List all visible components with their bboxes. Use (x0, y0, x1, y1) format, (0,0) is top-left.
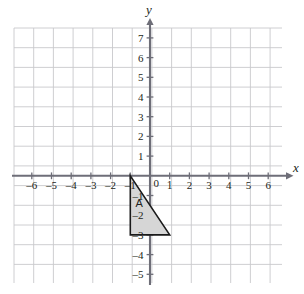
y-tick-label: –3 (132, 229, 145, 241)
x-tick-label: 2 (187, 179, 193, 191)
x-tick-label: –4 (65, 179, 78, 191)
origin-label: 0 (154, 177, 160, 189)
x-tick-label: 3 (206, 179, 212, 191)
y-tick-label: –5 (132, 268, 145, 280)
x-tick-label: –6 (25, 179, 38, 191)
x-tick-label: –2 (104, 179, 116, 191)
y-tick-label: 4 (138, 91, 144, 103)
coordinate-grid-svg: –6–5–4–3–2–11234567654321–1–2–3–4–50A xy (0, 0, 304, 294)
shape-label-a: A (135, 197, 143, 209)
y-axis-label: y (144, 2, 152, 17)
y-tick-label: 6 (138, 52, 144, 64)
x-tick-label: 5 (246, 179, 252, 191)
x-tick-label: 6 (265, 179, 271, 191)
y-tick-label: 1 (138, 150, 144, 162)
y-tick-label: –4 (132, 249, 145, 261)
y-tick-label: –2 (132, 209, 144, 221)
x-tick-label: 1 (167, 179, 173, 191)
y-tick-label: 7 (138, 32, 144, 44)
y-tick-label: 2 (138, 130, 144, 142)
x-tick-label: 4 (226, 179, 232, 191)
y-tick-label: 5 (138, 71, 144, 83)
x-tick-label: –5 (45, 179, 58, 191)
y-tick-label: 3 (138, 111, 144, 123)
x-axis-label: x (292, 160, 299, 175)
coordinate-plane-figure: –6–5–4–3–2–11234567654321–1–2–3–4–50A xy (0, 0, 304, 294)
x-tick-label: –3 (84, 179, 97, 191)
